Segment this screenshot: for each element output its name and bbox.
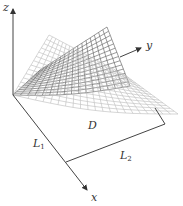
x-axis-label: x (91, 192, 97, 203)
l2-sub: 2 (127, 155, 131, 163)
y-axis (120, 48, 141, 57)
l1-sub: 1 (40, 143, 44, 151)
side-label-l2: L2 (120, 150, 132, 163)
y-axis-label: y (146, 40, 152, 51)
side-label-l1: L1 (33, 138, 45, 151)
domain-edge-l2 (66, 124, 165, 162)
surface-diagram (0, 0, 183, 206)
z-axis-label: z (3, 2, 9, 13)
domain-edge-right (155, 108, 165, 124)
x-axis (13, 95, 87, 190)
domain-label: D (88, 120, 97, 131)
